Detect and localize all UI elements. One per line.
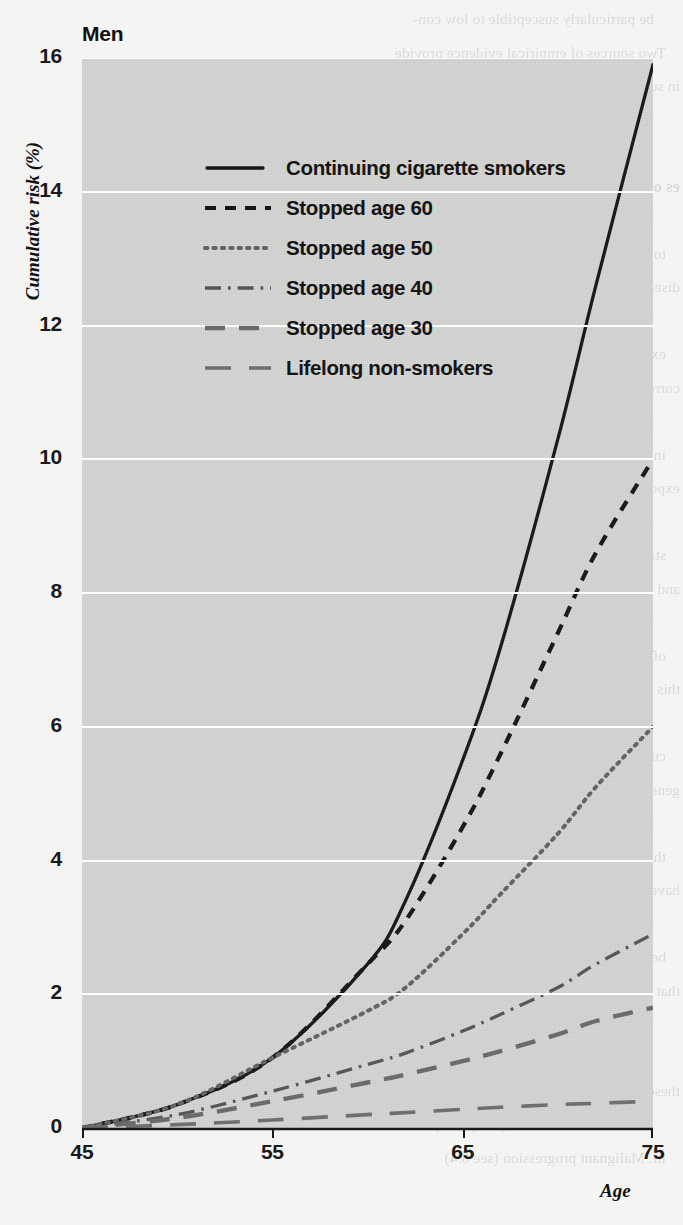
series-line-dashed [82, 459, 653, 1128]
y-tick-12: 12 [0, 312, 72, 336]
series-line-long-dash [82, 1101, 653, 1128]
plot-area: Continuing cigarette smokersStopped age … [82, 58, 653, 1128]
x-tick-55: 55 [242, 1140, 302, 1164]
legend-label: Continuing cigarette smokers [286, 156, 566, 180]
x-axis-label: Age [600, 1180, 631, 1202]
x-tick-45: 45 [52, 1140, 112, 1164]
y-tick-10: 10 [0, 445, 72, 469]
y-tick-8: 8 [0, 579, 72, 603]
x-tick-mark-55 [272, 1129, 274, 1138]
x-tick-mark-65 [463, 1129, 465, 1138]
y-tick-label: 14 [39, 178, 72, 201]
legend-item: Continuing cigarette smokers [203, 148, 566, 188]
legend-key-long-dash [203, 357, 277, 379]
y-tick-2: 2 [0, 980, 72, 1004]
legend-item: Stopped age 40 [203, 268, 566, 308]
y-tick-label: 8 [51, 579, 72, 602]
legend-key-long-dash-dark [203, 317, 277, 339]
legend-key-dotted [203, 237, 277, 259]
gridline-y-10 [82, 458, 653, 460]
y-tick-label: 2 [51, 980, 72, 1003]
gridline-y-2 [82, 993, 653, 995]
y-axis-label: Cumulative risk (%) [22, 136, 44, 306]
y-tick-label: 0 [51, 1114, 72, 1137]
legend-label: Stopped age 50 [286, 236, 433, 260]
legend-label: Lifelong non-smokers [286, 356, 493, 380]
y-tick-label: 4 [51, 847, 72, 870]
y-tick-label: 12 [39, 312, 72, 335]
y-tick-0: 0 [0, 1114, 72, 1138]
legend-key-dash-dot [203, 277, 277, 299]
legend-key-dashed [203, 197, 277, 219]
gridline-y-4 [82, 860, 653, 862]
legend-item: Stopped age 30 [203, 308, 566, 348]
legend-item: Stopped age 60 [203, 188, 566, 228]
legend-item: Stopped age 50 [203, 228, 566, 268]
gridline-y-6 [82, 726, 653, 728]
gridline-y-16 [82, 58, 653, 59]
y-tick-label: 16 [39, 44, 72, 67]
x-tick-65: 65 [433, 1140, 493, 1164]
chart-title: Men [82, 22, 123, 46]
legend-label: Stopped age 60 [286, 196, 433, 220]
y-tick-14: 14 [0, 178, 72, 202]
y-tick-6: 6 [0, 713, 72, 737]
legend-label: Stopped age 40 [286, 276, 433, 300]
legend-key-solid [203, 157, 277, 179]
x-tick-mark-75 [651, 1129, 653, 1138]
gridline-y-8 [82, 592, 653, 594]
x-tick-mark-45 [82, 1129, 84, 1138]
x-tick-75: 75 [623, 1140, 683, 1164]
y-tick-label: 10 [39, 445, 72, 468]
y-tick-16: 16 [0, 44, 72, 68]
legend-item: Lifelong non-smokers [203, 348, 566, 388]
y-tick-label: 6 [51, 713, 72, 736]
legend-label: Stopped age 30 [286, 316, 433, 340]
series-line-dotted [82, 727, 653, 1128]
legend: Continuing cigarette smokersStopped age … [203, 148, 566, 388]
y-tick-4: 4 [0, 847, 72, 871]
